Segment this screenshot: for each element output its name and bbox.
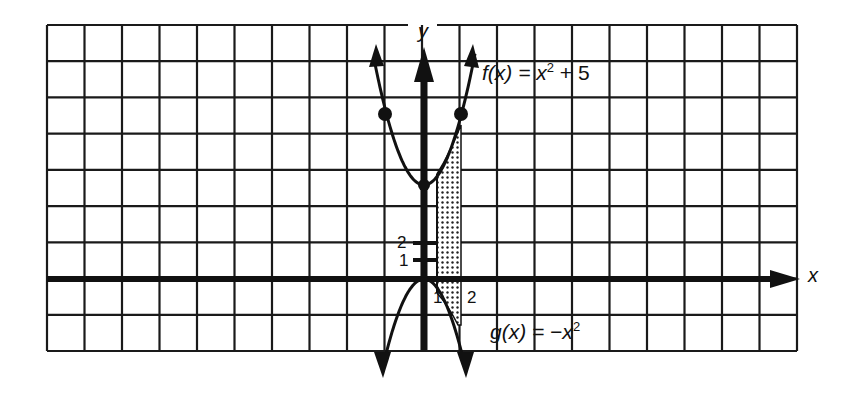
f-tail: + 5	[554, 61, 590, 84]
y-axis-label: y	[418, 20, 428, 43]
g-eq: = −x	[526, 320, 573, 343]
g-equation-label: g(x) = −x2	[490, 319, 580, 344]
f-eq: = x	[512, 61, 546, 84]
y-tick-label-2: 2	[397, 233, 406, 253]
g-exponent: 2	[573, 319, 580, 334]
f-equation-label: f(x) = x2 + 5	[482, 60, 590, 85]
f-exponent: 2	[547, 60, 554, 75]
g-name: g(x)	[490, 320, 526, 343]
x-tick-label-2: 2	[467, 288, 476, 308]
f-name: f(x)	[482, 61, 512, 84]
f-point-right	[454, 107, 468, 121]
x-axis-label: x	[808, 264, 818, 287]
x-tick-label-1: 1	[433, 288, 442, 308]
f-vertex	[418, 179, 430, 191]
graph-canvas	[0, 0, 858, 396]
y-axis	[414, 47, 434, 350]
y-tick-label-1: 1	[399, 251, 408, 271]
f-point-left	[378, 107, 392, 121]
